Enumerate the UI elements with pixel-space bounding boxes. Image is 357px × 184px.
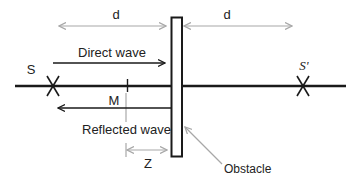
image-source-label: S' bbox=[299, 58, 309, 73]
d-right-label: d bbox=[223, 7, 230, 22]
z-label: Z bbox=[144, 156, 152, 171]
obstacle-pointer-arrow bbox=[185, 127, 222, 164]
wave-diagram: d d S S' Direct wave M Reflected wave Z … bbox=[0, 0, 357, 184]
direct-wave-label: Direct wave bbox=[78, 45, 146, 60]
source-label: S bbox=[27, 62, 36, 77]
d-left-label: d bbox=[112, 7, 119, 22]
obstacle-shape bbox=[172, 18, 183, 157]
midpoint-label: M bbox=[109, 93, 120, 108]
reflected-wave-label: Reflected wave bbox=[82, 122, 171, 137]
obstacle-label: Obstacle bbox=[224, 162, 272, 176]
